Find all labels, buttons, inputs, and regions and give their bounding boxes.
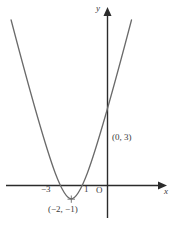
origin-label: O <box>96 186 103 195</box>
parabola-figure: y x O −3 1 (0, 3) (−2, −1) <box>0 0 174 226</box>
root-right-label: 1 <box>84 185 89 194</box>
y-intercept-label: (0, 3) <box>112 133 132 142</box>
vertex-label: (−2, −1) <box>48 205 78 214</box>
vertex-marker <box>68 196 76 203</box>
parabola-curve <box>11 20 131 199</box>
x-axis-label: x <box>164 187 168 196</box>
root-left-label: −3 <box>41 185 51 194</box>
y-axis <box>104 7 112 218</box>
y-axis-label: y <box>96 4 100 13</box>
